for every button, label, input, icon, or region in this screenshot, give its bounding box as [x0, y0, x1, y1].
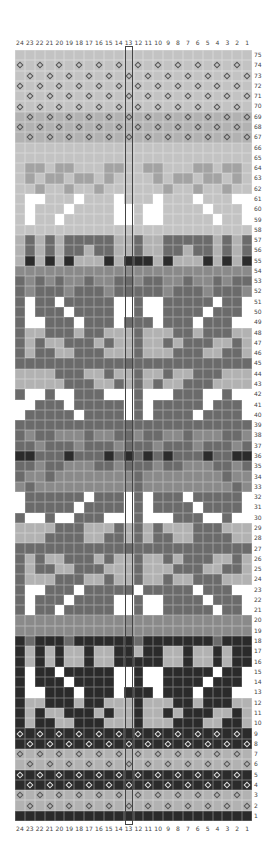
chart-cell [232, 91, 242, 101]
chart-cell [153, 286, 163, 296]
chart-cell [104, 513, 114, 523]
chart-cell [15, 307, 25, 317]
chart-cell [104, 523, 114, 533]
chart-cell [74, 471, 84, 481]
chart-cell [143, 554, 153, 564]
chart-cell [163, 698, 173, 708]
chart-cell [114, 646, 124, 656]
chart-cell [124, 214, 134, 224]
chart-cell [183, 554, 193, 564]
chart-cell [213, 564, 223, 574]
chart-cell [45, 317, 55, 327]
chart-cell [242, 482, 252, 492]
chart-cell [64, 81, 74, 91]
chart-cell [104, 184, 114, 194]
column-label: 7 [183, 38, 193, 48]
chart-cell [193, 728, 203, 738]
chart-cell [134, 523, 144, 533]
chart-cell [203, 256, 213, 266]
chart-cell [15, 677, 25, 687]
chart-cell [183, 759, 193, 769]
chart-cell [134, 266, 144, 276]
chart-cell [15, 245, 25, 255]
chart-cell [124, 184, 134, 194]
chart-cell [94, 615, 104, 625]
chart-cell [104, 708, 114, 718]
chart-cell [213, 677, 223, 687]
chart-cell [193, 657, 203, 667]
chart-cell [94, 225, 104, 235]
chart-cell [94, 358, 104, 368]
chart-cell [173, 626, 183, 636]
chart-cell [64, 759, 74, 769]
chart-cell [74, 543, 84, 553]
chart-cell [84, 749, 94, 759]
chart-cell [242, 708, 252, 718]
chart-cell [153, 266, 163, 276]
row-label: 69 [254, 112, 273, 122]
chart-cell [193, 348, 203, 358]
chart-cell [163, 369, 173, 379]
chart-cell [45, 60, 55, 70]
chart-cell [35, 71, 45, 81]
chart-cell [45, 677, 55, 687]
chart-cell [15, 554, 25, 564]
chart-cell [134, 235, 144, 245]
chart-cell [153, 297, 163, 307]
chart-cell [143, 91, 153, 101]
chart-cell [45, 636, 55, 646]
chart-cell [114, 502, 124, 512]
chart-cell [64, 451, 74, 461]
chart-cell [143, 286, 153, 296]
row-label: 65 [254, 153, 273, 163]
chart-cell [104, 615, 114, 625]
chart-cell [183, 194, 193, 204]
chart-cell [183, 225, 193, 235]
chart-cell [64, 626, 74, 636]
row-label: 29 [254, 523, 273, 533]
chart-cell [242, 81, 252, 91]
chart-cell [114, 369, 124, 379]
chart-cell [94, 420, 104, 430]
chart-cell [203, 245, 213, 255]
chart-cell [124, 482, 134, 492]
chart-cell [213, 307, 223, 317]
chart-cell [64, 122, 74, 132]
chart-cell [222, 554, 232, 564]
chart-cell [64, 513, 74, 523]
chart-cell [173, 811, 183, 821]
chart-cell [124, 410, 134, 420]
row-label: 56 [254, 245, 273, 255]
chart-cell [193, 790, 203, 800]
chart-cell [222, 461, 232, 471]
chart-cell [114, 667, 124, 677]
chart-cell [74, 60, 84, 70]
chart-cell [232, 564, 242, 574]
chart-cell [74, 369, 84, 379]
chart-cell [203, 317, 213, 327]
chart-cell [74, 646, 84, 656]
chart-cell [45, 400, 55, 410]
chart-cell [84, 811, 94, 821]
chart-cell [232, 677, 242, 687]
chart-cell [193, 523, 203, 533]
chart-cell [143, 276, 153, 286]
chart-cell [143, 605, 153, 615]
chart-cell [173, 348, 183, 358]
chart-cell [163, 317, 173, 327]
chart-cell [104, 297, 114, 307]
chart-cell [25, 101, 35, 111]
chart-cell [153, 400, 163, 410]
chart-cell [124, 400, 134, 410]
chart-cell [15, 739, 25, 749]
chart-cell [183, 338, 193, 348]
chart-cell [222, 348, 232, 358]
chart-cell [64, 677, 74, 687]
chart-cell [15, 646, 25, 656]
chart-cell [114, 595, 124, 605]
chart-cell [163, 379, 173, 389]
chart-cell [213, 800, 223, 810]
chart-cell [222, 574, 232, 584]
chart-cell [242, 471, 252, 481]
chart-cell [203, 451, 213, 461]
